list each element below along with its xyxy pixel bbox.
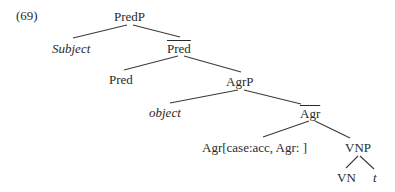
node-pred: Pred	[109, 72, 133, 87]
tree-branches	[0, 0, 395, 192]
node-predp: PredP	[114, 9, 145, 24]
node-vnp: VNP	[345, 140, 371, 155]
node-trace: t	[373, 170, 377, 185]
node-agr-bar: Agr	[300, 106, 320, 121]
example-number: (69)	[16, 8, 38, 23]
node-subject: Subject	[52, 41, 90, 56]
node-pred-bar: Pred	[167, 41, 191, 56]
node-vn: VN	[337, 170, 356, 185]
node-agrp: AgrP	[226, 74, 253, 89]
node-object: object	[149, 105, 181, 120]
node-agr-features: Agr[case:acc, Agr: ]	[202, 140, 307, 155]
